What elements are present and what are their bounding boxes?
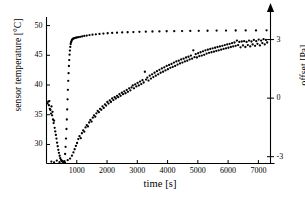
data-point xyxy=(215,50,217,52)
data-point xyxy=(49,109,51,111)
data-point xyxy=(205,52,207,54)
data-point xyxy=(180,58,182,60)
data-point xyxy=(226,43,228,45)
data-point xyxy=(175,60,177,62)
data-point xyxy=(64,161,66,163)
data-point xyxy=(196,56,198,58)
data-point xyxy=(59,155,61,157)
data-point xyxy=(64,146,66,148)
data-point xyxy=(242,44,244,46)
data-point xyxy=(80,137,82,139)
data-point xyxy=(213,51,215,53)
data-point xyxy=(107,102,109,104)
data-point xyxy=(67,80,69,82)
data-point xyxy=(176,63,178,65)
data-point xyxy=(235,29,237,31)
data-point xyxy=(225,47,227,49)
data-point xyxy=(173,61,175,63)
data-point xyxy=(207,49,209,51)
data-point xyxy=(174,65,176,67)
data-point xyxy=(159,72,161,74)
data-point xyxy=(231,42,233,44)
y-tick-label-right: 3 xyxy=(277,35,297,44)
data-point xyxy=(190,54,192,56)
data-point xyxy=(67,72,69,74)
data-point xyxy=(68,65,70,67)
data-point xyxy=(86,34,88,36)
data-point xyxy=(87,125,89,127)
data-point xyxy=(68,59,70,61)
data-point xyxy=(186,59,188,61)
data-point xyxy=(81,35,83,37)
data-point xyxy=(56,142,58,144)
data-point xyxy=(192,49,194,51)
y-tick-label-left: 50 xyxy=(23,21,43,30)
data-point xyxy=(228,43,230,45)
series-offset xyxy=(50,38,268,164)
data-point xyxy=(126,89,128,91)
data-point xyxy=(237,44,239,46)
y-axis-right-title: offset [Pa] xyxy=(299,0,305,130)
data-point xyxy=(140,83,142,85)
data-point xyxy=(120,95,122,97)
data-point xyxy=(61,160,63,162)
data-point xyxy=(222,48,224,50)
data-point xyxy=(74,148,76,150)
data-point xyxy=(78,135,80,137)
data-point xyxy=(208,52,210,54)
data-point xyxy=(199,51,201,53)
data-point xyxy=(166,65,168,67)
data-point xyxy=(123,90,125,92)
data-point xyxy=(162,71,164,73)
y-axis-left-title: sensor temperature [°C] xyxy=(13,0,23,130)
data-point xyxy=(179,62,181,64)
data-point xyxy=(259,44,261,46)
data-point xyxy=(255,29,257,31)
data-point xyxy=(158,69,160,71)
data-point xyxy=(204,49,206,51)
data-point xyxy=(239,46,241,48)
data-point xyxy=(238,41,240,43)
data-point xyxy=(158,30,160,32)
data-point xyxy=(156,70,158,72)
data-point xyxy=(66,98,68,100)
data-point xyxy=(57,145,59,147)
data-point xyxy=(145,31,147,33)
data-point xyxy=(83,35,85,37)
data-point xyxy=(71,155,73,157)
figure: sensor temperature [°C] offset [Pa] time… xyxy=(0,0,305,200)
data-point xyxy=(54,130,56,132)
y-tick-label-right: -3 xyxy=(277,152,297,161)
data-point xyxy=(198,30,200,32)
data-point xyxy=(92,116,94,118)
data-point xyxy=(52,122,54,124)
data-point xyxy=(58,161,60,163)
y-tick-label-left: 45 xyxy=(23,50,43,59)
data-point xyxy=(84,126,86,128)
data-point xyxy=(138,31,140,33)
data-point xyxy=(111,32,113,34)
data-point xyxy=(133,87,135,89)
data-point xyxy=(141,79,143,81)
data-point xyxy=(58,152,60,154)
data-point xyxy=(107,32,109,34)
data-point xyxy=(126,31,128,33)
data-point xyxy=(57,149,59,151)
data-point xyxy=(76,142,78,144)
data-point xyxy=(88,34,90,36)
data-point xyxy=(75,145,77,147)
data-point xyxy=(253,39,255,41)
data-point xyxy=(100,109,102,111)
data-point xyxy=(187,56,189,58)
data-point xyxy=(143,81,145,83)
data-point xyxy=(102,32,104,34)
data-point xyxy=(184,60,186,62)
data-point xyxy=(244,46,246,48)
x-axis-title: time [s] xyxy=(60,178,260,189)
data-point xyxy=(209,48,211,50)
data-point xyxy=(191,58,193,60)
data-point xyxy=(151,73,153,75)
data-point xyxy=(225,29,227,31)
data-point xyxy=(122,93,124,95)
data-point xyxy=(221,45,223,47)
